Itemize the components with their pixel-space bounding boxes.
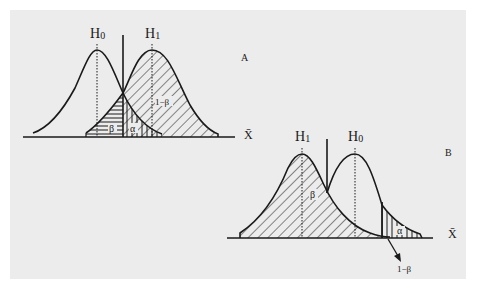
beta-label-b: β (310, 189, 315, 200)
x-axis-label-b: X̄ (448, 227, 457, 241)
panel-label-a: A (241, 52, 249, 63)
beta-label-a: β (109, 123, 114, 134)
h0-label-b: H0 (348, 129, 363, 144)
power-label-a: 1−β (155, 97, 170, 107)
hypothesis-test-diagram: H0 H1 1−β β α A X̄ H1 H0 β (0, 0, 480, 291)
alpha-label-a: α (130, 123, 136, 134)
power-label-b: 1−β (397, 264, 412, 274)
power-arrow-b (388, 239, 398, 256)
panel-a: H0 H1 1−β β α A X̄ (23, 26, 253, 142)
h0-label-a: H0 (90, 26, 105, 41)
h1-label-a: H1 (145, 26, 160, 41)
panel-label-b: B (445, 147, 452, 158)
arrow-head-icon (394, 253, 401, 262)
h1-label-b: H1 (295, 129, 310, 144)
panel-b: H1 H0 β α 1−β B X̄ (227, 129, 457, 274)
x-axis-label-a: X̄ (244, 128, 253, 142)
alpha-label-b: α (397, 225, 403, 236)
